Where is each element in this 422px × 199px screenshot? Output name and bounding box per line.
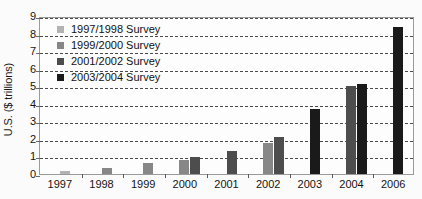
- bar: [143, 163, 153, 174]
- y-axis-tick-labels: 0123456789: [18, 12, 36, 178]
- bar: [179, 160, 189, 174]
- y-axis-tick-label: 1: [18, 151, 36, 162]
- y-axis-title: U.S. ($ trillions): [0, 0, 16, 199]
- y-axis-tick-mark: [36, 88, 40, 89]
- x-axis-tick-label: 2003: [298, 178, 322, 190]
- legend-item-label: 2003/2004 Survey: [71, 71, 160, 83]
- bar: [310, 109, 320, 174]
- legend-swatch-icon: [57, 74, 64, 81]
- y-axis-tick-mark: [36, 71, 40, 72]
- y-axis-tick-mark: [36, 18, 40, 19]
- y-axis-tick-mark: [36, 36, 40, 37]
- y-axis-tick-mark: [36, 106, 40, 107]
- y-axis-tick-label: 9: [18, 11, 36, 22]
- legend-item: 1997/1998 Survey: [57, 21, 187, 37]
- bar: [102, 168, 112, 174]
- legend-swatch-icon: [57, 26, 64, 33]
- y-axis-tick-mark: [36, 53, 40, 54]
- y-axis-tick-label: 4: [18, 99, 36, 110]
- bar: [263, 143, 273, 174]
- x-axis-tick-label: 1999: [131, 178, 155, 190]
- bar: [190, 157, 200, 174]
- legend-item-label: 1997/1998 Survey: [71, 23, 160, 35]
- x-axis-tick-label: 1998: [89, 178, 113, 190]
- bar: [274, 137, 284, 174]
- gridline: [40, 18, 413, 19]
- y-axis-tick-label: 8: [18, 29, 36, 40]
- x-axis-tick-label: 2002: [256, 178, 280, 190]
- y-axis-tick-label: 6: [18, 64, 36, 75]
- y-axis-tick-label: 3: [18, 116, 36, 127]
- y-axis-tick-label: 0: [18, 169, 36, 180]
- y-axis-tick-label: 7: [18, 46, 36, 57]
- y-axis-tick-mark: [36, 123, 40, 124]
- x-axis-tick-labels: 199719981999200020012002200320042006: [39, 178, 414, 196]
- x-axis-tick-label: 2006: [381, 178, 405, 190]
- bar: [346, 86, 356, 174]
- y-axis-tick-mark: [36, 158, 40, 159]
- x-axis-tick-label: 2004: [339, 178, 363, 190]
- y-axis-tick-mark: [36, 176, 40, 177]
- bar: [393, 27, 403, 174]
- y-axis-tick-mark: [36, 141, 40, 142]
- legend-swatch-icon: [57, 42, 64, 49]
- y-axis-tick-label: 2: [18, 134, 36, 145]
- legend-item: 2001/2002 Survey: [57, 53, 187, 69]
- legend-item: 1999/2000 Survey: [57, 37, 187, 53]
- bar: [357, 84, 367, 174]
- bar: [60, 171, 70, 175]
- y-axis-tick-label: 5: [18, 81, 36, 92]
- bar: [227, 151, 237, 174]
- legend-swatch-icon: [57, 58, 64, 65]
- x-axis-tick-label: 1997: [48, 178, 72, 190]
- bar-chart: U.S. ($ trillions) 0123456789 1997199819…: [0, 0, 422, 199]
- x-axis-tick-label: 2000: [173, 178, 197, 190]
- legend-item-label: 1999/2000 Survey: [71, 39, 160, 51]
- legend-item-label: 2001/2002 Survey: [71, 55, 160, 67]
- chart-legend: 1997/1998 Survey1999/2000 Survey2001/200…: [57, 21, 187, 85]
- legend-item: 2003/2004 Survey: [57, 69, 187, 85]
- x-axis-tick-label: 2001: [214, 178, 238, 190]
